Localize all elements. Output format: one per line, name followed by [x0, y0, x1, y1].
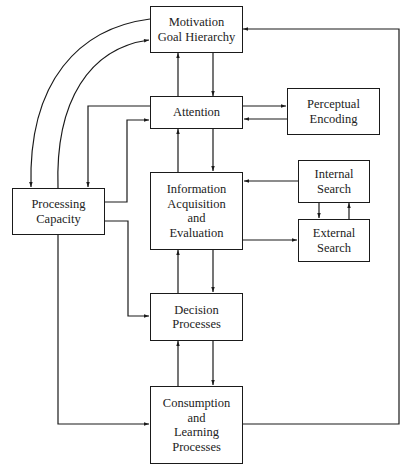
node-consumption-learning-processes: Consumption and Learning Processes	[150, 386, 243, 464]
node-label-line: Learning	[174, 425, 219, 440]
node-information-acquisition-evaluation: Information Acquisition and Evaluation	[150, 172, 243, 250]
node-attention: Attention	[150, 96, 243, 129]
edge-processing-to-consumption	[58, 234, 149, 424]
node-label-line: Consumption	[163, 396, 230, 411]
node-label-line: Internal	[315, 167, 354, 182]
node-label-line: and	[187, 411, 205, 426]
edge-processing-to-decision	[105, 221, 149, 316]
node-label-line: Information	[167, 182, 227, 197]
node-label-line: Decision	[174, 303, 218, 318]
node-label-line: Evaluation	[169, 226, 223, 241]
node-label-line: External	[313, 226, 355, 241]
edge-processing-to-attention	[105, 120, 149, 202]
node-label-line: Search	[317, 241, 351, 256]
node-processing-capacity: Processing Capacity	[12, 188, 105, 235]
edge-processing-to-motivation	[58, 40, 149, 188]
node-label-line: Perceptual	[307, 97, 360, 112]
node-motivation-goal-hierarchy: Motivation Goal Hierarchy	[150, 6, 243, 53]
node-label-line: Goal Hierarchy	[158, 30, 235, 45]
node-label-line: Processes	[172, 317, 221, 332]
node-label-line: Search	[317, 182, 351, 197]
edge-attention-to-processing	[88, 106, 150, 187]
node-label-line: and	[187, 211, 205, 226]
node-label-line: Processing	[31, 197, 85, 212]
node-external-search: External Search	[298, 219, 370, 262]
node-label-line: Capacity	[36, 212, 80, 227]
node-label-line: Processes	[172, 440, 221, 455]
node-label-line: Acquisition	[167, 197, 225, 212]
node-label-line: Attention	[173, 105, 220, 120]
node-decision-processes: Decision Processes	[150, 293, 243, 341]
node-perceptual-encoding: Perceptual Encoding	[287, 88, 380, 135]
node-label-line: Motivation	[169, 15, 225, 30]
node-internal-search: Internal Search	[298, 160, 370, 203]
node-label-line: Encoding	[310, 112, 358, 127]
